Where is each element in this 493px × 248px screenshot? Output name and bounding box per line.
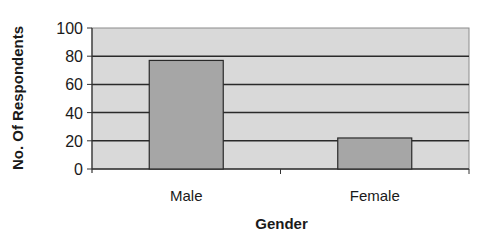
y-tick-label: 100 (56, 20, 83, 37)
plot-area (92, 28, 469, 169)
y-tick-label: 0 (74, 161, 83, 178)
bar-male (149, 60, 223, 169)
y-tick-label: 80 (65, 48, 83, 65)
x-axis-title: Gender (0, 215, 493, 232)
bar-chart: 020406080100MaleFemale No. Of Respondent… (0, 0, 493, 248)
bar-female (338, 138, 412, 169)
y-tick-label: 60 (65, 76, 83, 93)
chart-canvas: 020406080100MaleFemale (0, 0, 493, 248)
y-axis-title: No. Of Respondents (9, 8, 31, 188)
x-tick-label: Female (350, 187, 400, 204)
x-tick-label: Male (170, 187, 203, 204)
y-tick-label: 40 (65, 105, 83, 122)
y-tick-label: 20 (65, 133, 83, 150)
